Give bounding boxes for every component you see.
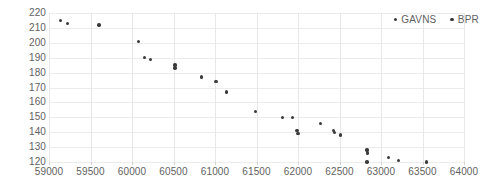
data-point [59,19,62,22]
x-axis: 5900059500600006050061000615006200062500… [49,166,464,180]
data-point [387,156,390,159]
x-axis-tick-mark [381,162,382,165]
data-point [425,160,428,163]
data-point [143,56,146,59]
y-axis-tick-label: 220 [2,8,46,18]
x-axis-tick-label: 64000 [439,166,489,178]
y-axis-tick-label: 200 [2,38,46,48]
gridline-vertical [298,13,299,162]
data-point [366,151,369,154]
data-point [365,160,368,163]
gridline-vertical [91,13,92,162]
x-axis-tick-mark [49,162,50,165]
x-axis-tick-mark [340,162,341,165]
data-point [149,58,152,61]
y-axis-tick-label: 140 [2,127,46,137]
data-point [339,133,342,136]
data-point [296,132,299,135]
legend-marker-icon [450,18,453,21]
y-axis: 120130140150160170180190200210220 [0,13,46,162]
data-point [214,80,217,83]
chart-legend: GAVNSBPR [394,14,479,25]
x-axis-tick-mark [215,162,216,165]
x-axis-tick-mark [132,162,133,165]
gridline-vertical [174,13,175,162]
data-point [333,131,336,134]
y-axis-tick-label: 210 [2,23,46,33]
gridline-vertical [257,13,258,162]
data-point [200,75,203,78]
legend-marker-icon [394,18,397,21]
data-point [66,22,69,25]
gridline-vertical [49,13,50,162]
data-point [281,116,284,119]
data-point [225,90,228,93]
legend-label: GAVNS [401,14,436,25]
y-axis-tick-label: 130 [2,142,46,152]
y-axis-tick-label: 190 [2,53,46,63]
y-axis-tick-label: 160 [2,97,46,107]
x-axis-tick-mark [91,162,92,165]
gridline-vertical [340,13,341,162]
data-point [173,66,176,69]
y-axis-tick-label: 180 [2,68,46,78]
data-point [319,122,322,125]
x-axis-tick-mark [464,162,465,165]
y-axis-tick-label: 150 [2,112,46,122]
gridline-vertical [464,13,465,162]
x-axis-tick-mark [423,162,424,165]
gridline-vertical [381,13,382,162]
plot-area [49,13,464,162]
gridline-vertical [132,13,133,162]
legend-item-bpr[interactable]: BPR [450,14,479,25]
data-point [291,116,294,119]
y-axis-tick-label: 170 [2,83,46,93]
x-axis-tick-mark [174,162,175,165]
data-point [97,23,100,26]
gridline-vertical [215,13,216,162]
x-axis-tick-mark [298,162,299,165]
legend-label: BPR [458,14,479,25]
scatter-chart: 120130140150160170180190200210220 590005… [0,0,489,187]
legend-item-gavns[interactable]: GAVNS [394,14,437,25]
x-axis-tick-mark [257,162,258,165]
gridline-vertical [423,13,424,162]
